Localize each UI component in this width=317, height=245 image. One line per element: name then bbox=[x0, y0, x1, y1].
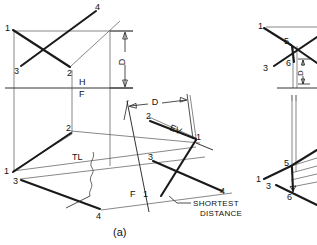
label-right-point-1-front: 1 bbox=[256, 174, 261, 184]
label-dim-d-vertical: D bbox=[117, 58, 127, 65]
label-right-point-1-top: 1 bbox=[258, 21, 263, 31]
label-fold-h: H bbox=[79, 77, 86, 87]
label-right-point-6-top: 6 bbox=[286, 58, 291, 68]
label-point-1-top: 1 bbox=[5, 23, 10, 33]
label-point-2-top: 2 bbox=[67, 68, 72, 78]
label-fold-1: 1 bbox=[143, 189, 148, 199]
right-line-5-ext-front bbox=[291, 150, 317, 166]
line-3-4-front bbox=[21, 180, 100, 209]
construction-line-2-up bbox=[71, 21, 120, 66]
aux-dim-ext-left bbox=[124, 100, 128, 120]
label-right-point-5-top: 5 bbox=[284, 36, 289, 46]
label-dim-d-horizontal: D bbox=[152, 97, 159, 107]
right-line-3-6-top bbox=[274, 37, 317, 66]
line-3-4-top bbox=[21, 11, 96, 66]
front-construction-c bbox=[20, 157, 205, 179]
right-figure: 1 5 3 6 D 5 1 3 6 bbox=[256, 21, 317, 205]
shortest-distance-line bbox=[161, 140, 196, 196]
dimension-d-vertical: D bbox=[110, 31, 133, 88]
true-length-wavy-leader bbox=[90, 152, 94, 196]
label-point-2-front: 2 bbox=[66, 123, 71, 133]
label-right-dim-d: D bbox=[296, 70, 305, 76]
label-right-point-6-front: 6 bbox=[287, 192, 292, 202]
label-fold-f2: F bbox=[130, 189, 136, 199]
right-line-5-ext-top bbox=[291, 45, 317, 63]
label-point-1-front: 1 bbox=[4, 166, 9, 176]
left-top-view: 1 3 4 2 bbox=[5, 2, 133, 172]
line-2-1-front bbox=[13, 133, 71, 172]
label-point-4-top: 4 bbox=[95, 2, 100, 12]
label-right-point-3-front: 3 bbox=[266, 181, 271, 191]
label-point-2-aux: 2 bbox=[146, 111, 151, 121]
label-point-3-top: 3 bbox=[14, 66, 19, 76]
label-point-4-front: 4 bbox=[96, 211, 101, 221]
aux-dim-ext-right bbox=[187, 94, 193, 139]
label-point-1-aux: 1 bbox=[196, 132, 201, 142]
label-right-point-3-top: 3 bbox=[263, 63, 268, 73]
line-3-4-aux bbox=[153, 161, 222, 191]
right-front-construction-c bbox=[291, 174, 317, 180]
label-right-point-5-front: 5 bbox=[284, 158, 289, 168]
right-front-construction-b bbox=[291, 166, 317, 173]
label-true-length: TL bbox=[72, 152, 83, 162]
shortest-distance-tick bbox=[196, 143, 213, 150]
right-line-3-6-front bbox=[276, 185, 317, 205]
aux-dim-arrow-right bbox=[180, 97, 187, 102]
label-point-4-aux: 4 bbox=[220, 186, 225, 196]
descriptive-geometry-figure: 1 3 4 2 H F D TL 2 bbox=[0, 0, 317, 245]
label-point-3-aux: 3 bbox=[148, 152, 153, 162]
label-shortest-line1: SHORTEST bbox=[193, 199, 239, 208]
figure-caption: (a) bbox=[113, 226, 126, 238]
label-edge-view: EV bbox=[168, 123, 183, 137]
label-fold-f: F bbox=[79, 89, 85, 99]
right-seg-5-6-front bbox=[292, 167, 293, 191]
label-shortest-line2: DISTANCE bbox=[200, 209, 242, 218]
label-point-3-front: 3 bbox=[13, 176, 18, 186]
right-seg-5-6-top bbox=[292, 46, 294, 62]
